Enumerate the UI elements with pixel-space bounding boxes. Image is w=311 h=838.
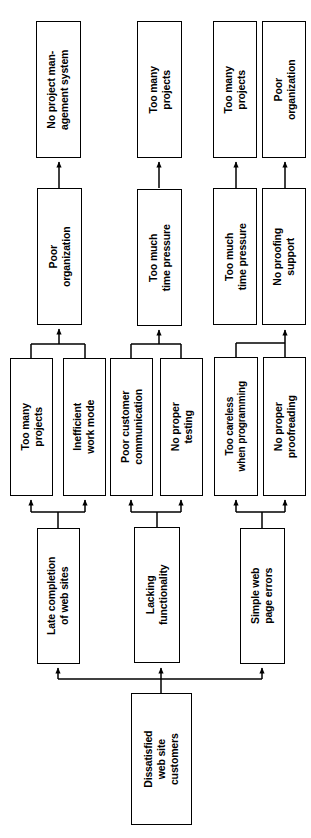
node-too-many-projects-branch3[interactable]: Too many projects [213, 21, 257, 158]
node-label: Too much time pressure [222, 223, 248, 290]
node-poor-customer-communication[interactable]: Poor customer communication [110, 358, 153, 496]
node-label: Dissatisfied web site customers [142, 730, 180, 787]
node-label: Poor customer communication [119, 389, 145, 465]
node-label: Too careless when programming [224, 381, 248, 471]
node-no-proper-proofreading[interactable]: No proper proofreading [263, 357, 306, 496]
node-poor-organization-branch1[interactable]: Poor organization [37, 188, 82, 325]
node-too-careless-when-programming[interactable]: Too careless when programming [214, 357, 258, 496]
node-inefficient-work-mode[interactable]: Inefficient work mode [63, 358, 106, 496]
node-no-proofing-support[interactable]: No proofing support [262, 188, 306, 325]
node-lacking-functionality[interactable]: Lacking functionality [134, 527, 180, 663]
node-root-dissatisfied-web-site-customers[interactable]: Dissatisfied web site customers [131, 693, 192, 825]
node-label: Inefficient work mode [72, 400, 98, 454]
node-poor-organization-branch3[interactable]: Poor organization [262, 21, 306, 158]
node-too-many-projects-branch1[interactable]: Too many projects [10, 358, 53, 496]
node-label: No project man- agement system [46, 49, 72, 129]
node-label: Too much time pressure [147, 224, 173, 291]
node-label: Too many projects [222, 66, 248, 114]
node-label: Too many projects [19, 403, 45, 451]
node-late-completion-of-web-sites[interactable]: Late completion of web sites [37, 528, 80, 664]
node-no-proper-testing[interactable]: No proper testing [160, 358, 203, 496]
node-label: Simple web page errors [250, 568, 276, 624]
cause-tree-diagram: No project man- agement system Too many … [0, 0, 311, 838]
node-too-much-time-pressure-branch3[interactable]: Too much time pressure [213, 188, 257, 325]
node-label: Poor organization [47, 226, 73, 287]
node-simple-web-page-errors[interactable]: Simple web page errors [240, 528, 285, 664]
node-no-project-management-system[interactable]: No project man- agement system [36, 21, 81, 158]
node-label: Poor organization [271, 59, 297, 120]
node-label: Too many projects [147, 66, 173, 114]
node-label: No proper proofreading [272, 395, 298, 458]
node-too-much-time-pressure-branch2[interactable]: Too much time pressure [137, 189, 182, 326]
node-label: Lacking functionality [144, 565, 170, 625]
node-label: Late completion of web sites [46, 557, 72, 635]
node-label: No proper testing [169, 403, 195, 452]
node-too-many-projects-branch2[interactable]: Too many projects [137, 21, 182, 158]
node-label: No proofing support [271, 228, 297, 286]
